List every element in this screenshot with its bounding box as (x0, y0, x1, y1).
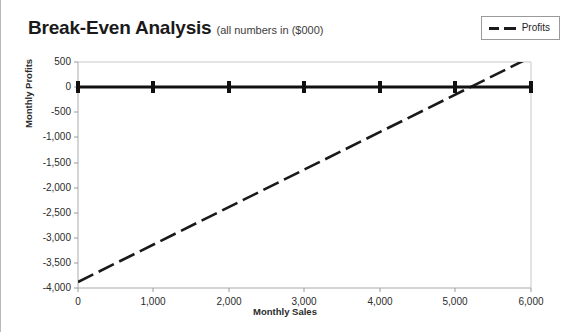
y-tick-label: 500 (29, 56, 71, 67)
chart-canvas (1, 0, 568, 332)
y-tick-label: -500 (29, 106, 71, 117)
y-tick-label: -1,500 (29, 157, 71, 168)
y-tick-label: -3,000 (29, 232, 71, 243)
y-tick-label: -2,500 (29, 207, 71, 218)
y-tick-label: -4,000 (29, 282, 71, 293)
y-tick-label: -3,500 (29, 257, 71, 268)
y-tick-label: -2,000 (29, 182, 71, 193)
chart-page: Break-Even Analysis(all numbers in ($000… (0, 0, 568, 332)
y-tick-marks (74, 62, 78, 288)
x-axis-title: Monthly Sales (1, 306, 568, 317)
y-tick-label: -1,000 (29, 131, 71, 142)
plot-area: 500 0 -500 -1,000 -1,500 -2,000 -2,500 -… (1, 0, 568, 332)
y-axis-title: Monthly Profits (23, 114, 34, 128)
x-tick-marks (78, 288, 531, 292)
y-tick-label: 0 (29, 81, 71, 92)
